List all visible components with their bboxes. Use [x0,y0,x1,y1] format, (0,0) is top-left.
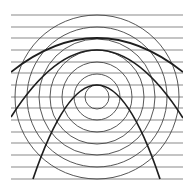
illusion-canvas [0,0,192,194]
illusion-figure [0,0,192,194]
thick-arc [11,38,183,72]
horizontal-lines [11,15,183,179]
